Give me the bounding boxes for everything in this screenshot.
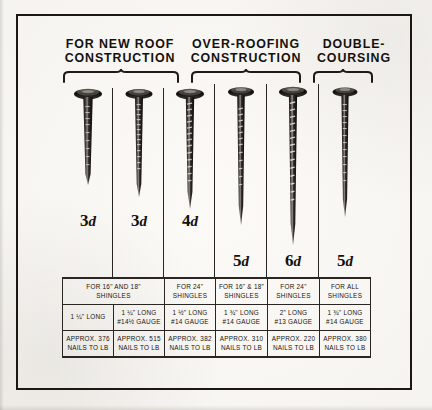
- penny-size-label-3: 4d: [170, 211, 210, 231]
- table-cell-count-4: APPROX. 310 NAILS TO LB: [216, 331, 268, 358]
- nail-illustration-3: [174, 88, 206, 214]
- penny-size-label-1: 3d: [68, 211, 108, 231]
- heading-double-coursing: DOUBLE- COURSING: [306, 38, 402, 65]
- penny-size-label-2: 3d: [119, 211, 159, 231]
- table-cell-shingles-2: FOR 24" SHINGLES: [165, 278, 216, 305]
- penny-size-label-5: 6d: [273, 251, 313, 271]
- penny-size-number-6: 5: [337, 251, 346, 270]
- table-cell-spec-2: 1 ¼" LONG #14½ GAUGE: [114, 305, 165, 331]
- table-cell-spec-3: 1 ½" LONG #14 GAUGE: [165, 305, 216, 331]
- table-cell-spec-5: 2" LONG #13 GAUGE: [268, 305, 320, 331]
- penny-size-label-6: 5d: [325, 251, 365, 271]
- scan-edge-shadow-bottom: [0, 405, 432, 410]
- table-row-nails-per-lb: APPROX. 376 NAILS TO LB APPROX. 515 NAIL…: [63, 331, 371, 358]
- table-cell-spec-6: 1 ¾" LONG #14 GAUGE: [320, 305, 371, 331]
- penny-size-number-5: 6: [285, 251, 294, 270]
- nail-illustration-4: [225, 86, 257, 230]
- nail-specification-table: FOR 16" AND 18" SHINGLES FOR 24" SHINGLE…: [62, 277, 371, 358]
- heading-for-new-roof-construction: FOR NEW ROOF CONSTRUCTION: [58, 38, 182, 65]
- penny-size-number-4: 5: [233, 251, 242, 270]
- heading-over-roofing-construction: OVER-ROOFING CONSTRUCTION: [186, 38, 306, 65]
- penny-size-unit-5: d: [294, 253, 302, 269]
- brace-over-roofing-icon: [190, 69, 302, 83]
- penny-size-unit-3: d: [191, 213, 199, 229]
- penny-size-number-2: 3: [131, 211, 140, 230]
- table-cell-spec-4: 1 ¾" LONG #14 GAUGE: [216, 305, 268, 331]
- table-cell-shingles-3: FOR 16" & 18" SHINGLES: [216, 278, 268, 305]
- table-cell-count-2: APPROX. 515 NAILS TO LB: [114, 331, 165, 358]
- penny-size-number-1: 3: [80, 211, 89, 230]
- nail-illustration-1: [72, 88, 104, 190]
- penny-size-number-3: 4: [182, 211, 191, 230]
- penny-size-unit-1: d: [89, 213, 97, 229]
- table-cell-count-5: APPROX. 220 NAILS TO LB: [268, 331, 320, 358]
- table-cell-count-3: APPROX. 382 NAILS TO LB: [165, 331, 216, 358]
- column-rule-3: [214, 84, 215, 277]
- table-cell-shingles-1: FOR 16" AND 18" SHINGLES: [63, 278, 165, 305]
- table-cell-shingles-5: FOR ALL SHINGLES: [320, 278, 371, 305]
- penny-size-label-4: 5d: [221, 251, 261, 271]
- nail-illustration-6: [329, 86, 361, 222]
- table-row-length-gauge: 1 ¼" LONG 1 ¼" LONG #14½ GAUGE 1 ½" LONG…: [63, 305, 371, 331]
- column-rule-4: [266, 84, 267, 277]
- table-row-shingle-size: FOR 16" AND 18" SHINGLES FOR 24" SHINGLE…: [63, 278, 371, 305]
- table-cell-shingles-4: FOR 24" SHINGLES: [268, 278, 320, 305]
- column-rule-2: [163, 88, 164, 277]
- brace-double-coursing-icon: [312, 69, 374, 83]
- nail-illustration-2: [123, 88, 155, 202]
- table-cell-count-1: APPROX. 376 NAILS TO LB: [63, 331, 114, 358]
- penny-size-unit-6: d: [346, 253, 354, 269]
- nail-illustration-5: [277, 86, 309, 250]
- scan-edge-shadow-left: [0, 0, 4, 410]
- column-rule-1: [112, 88, 113, 277]
- column-rule-5: [318, 84, 319, 277]
- figure-page: FOR NEW ROOF CONSTRUCTION OVER-ROOFING C…: [0, 0, 432, 410]
- penny-size-unit-2: d: [140, 213, 148, 229]
- table-cell-spec-1: 1 ¼" LONG: [63, 305, 114, 331]
- brace-new-roof-icon: [62, 69, 180, 83]
- penny-size-unit-4: d: [242, 253, 250, 269]
- table-cell-count-6: APPROX. 380 NAILS TO LB: [320, 331, 371, 358]
